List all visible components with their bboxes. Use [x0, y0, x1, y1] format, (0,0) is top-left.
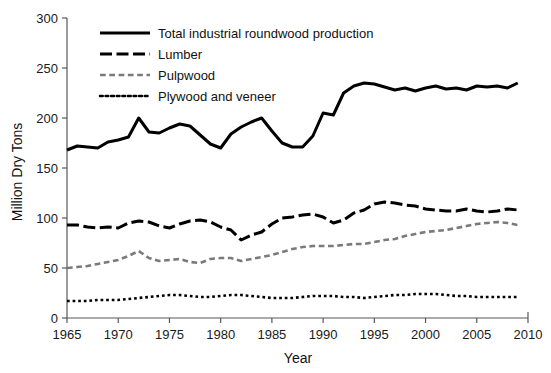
- x-tick-label: 1975: [155, 327, 184, 342]
- line-chart: 0501001502002503001965197019751980198519…: [0, 0, 551, 373]
- series-line-2: [67, 222, 518, 268]
- chart-legend: Total industrial roundwood productionLum…: [100, 26, 373, 104]
- x-tick-label: 1980: [206, 327, 235, 342]
- legend-label-1: Lumber: [158, 47, 203, 62]
- x-tick-label: 2005: [462, 327, 491, 342]
- y-tick-label: 50: [44, 261, 58, 276]
- series-line-1: [67, 202, 518, 240]
- series-line-3: [67, 294, 518, 301]
- x-axis-title: Year: [284, 350, 313, 366]
- x-tick-label: 1985: [257, 327, 286, 342]
- y-tick-label: 100: [36, 211, 58, 226]
- axes: [62, 18, 528, 323]
- y-tick-label: 0: [51, 311, 58, 326]
- legend-label-3: Plywood and veneer: [158, 89, 276, 104]
- x-tick-label: 1970: [104, 327, 133, 342]
- x-tick-label: 1965: [53, 327, 82, 342]
- legend-label-2: Pulpwood: [158, 68, 215, 83]
- y-axis-title: Million Dry Tons: [9, 123, 25, 222]
- y-tick-label: 300: [36, 11, 58, 26]
- y-tick-label: 250: [36, 61, 58, 76]
- x-tick-label: 1990: [309, 327, 338, 342]
- y-tick-label: 200: [36, 111, 58, 126]
- series-lines: [67, 83, 518, 301]
- x-tick-label: 2000: [411, 327, 440, 342]
- x-tick-label: 2010: [514, 327, 543, 342]
- x-tick-label: 1995: [360, 327, 389, 342]
- chart-figure: 0501001502002503001965197019751980198519…: [0, 0, 551, 373]
- y-tick-label: 150: [36, 161, 58, 176]
- tick-labels: 0501001502002503001965197019751980198519…: [36, 11, 542, 342]
- legend-label-0: Total industrial roundwood production: [158, 26, 373, 41]
- series-line-0: [67, 83, 518, 150]
